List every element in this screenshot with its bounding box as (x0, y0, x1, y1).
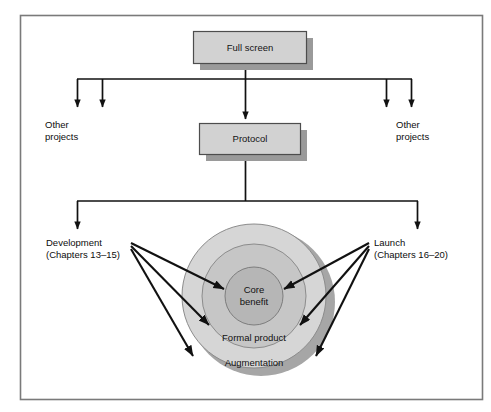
box-protocol-label: Protocol (233, 133, 268, 144)
label-launch-line2: (Chapters 16–20) (374, 249, 448, 260)
ring-label-core-benefit-line2: benefit (240, 296, 269, 307)
label-development-line2: (Chapters 13–15) (46, 249, 120, 260)
label-other-projects-right-line1: Other (396, 119, 420, 130)
label-launch-line1: Launch (374, 237, 405, 248)
figure-root: Core benefit Formal product Augmentation (0, 0, 491, 412)
box-protocol[interactable]: Protocol (200, 124, 308, 162)
diagram-canvas: Core benefit Formal product Augmentation (0, 0, 491, 412)
box-full-screen-label: Full screen (227, 42, 273, 53)
box-full-screen[interactable]: Full screen (194, 32, 314, 71)
ring-label-augmentation: Augmentation (225, 357, 284, 368)
label-development-line1: Development (46, 237, 102, 248)
ring-label-core-benefit-line1: Core (244, 284, 265, 295)
ring-label-formal-product: Formal product (222, 332, 286, 343)
label-other-projects-left-line2: projects (45, 131, 79, 142)
label-other-projects-left-line1: Other (45, 119, 69, 130)
label-other-projects-right-line2: projects (396, 131, 430, 142)
